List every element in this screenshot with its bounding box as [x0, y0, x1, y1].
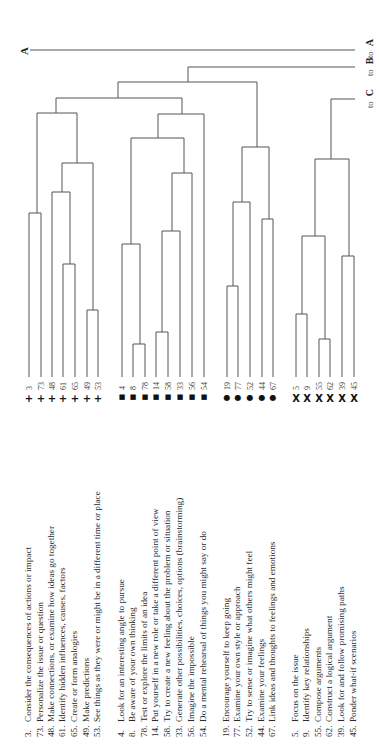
leaf-number: 65: [71, 382, 80, 390]
item-label: 33.Generate other possibilities, choices…: [175, 498, 184, 737]
item-text: Personalize the issue or question: [35, 602, 45, 722]
leaf-number: 49: [83, 382, 92, 390]
item-label: 61.Identify hidden influences, causes, f…: [58, 567, 67, 737]
item-number: 58.: [163, 722, 172, 737]
item-number: 61.: [58, 722, 67, 737]
item-number: 3.: [24, 722, 33, 737]
leaf-symbol-icon: +: [47, 393, 57, 404]
leaf-number: 78: [141, 382, 150, 390]
item-text: Look for an interesting angle to pursue: [116, 579, 126, 722]
item-number: 14.: [151, 722, 160, 737]
leaf-number: 44: [258, 382, 267, 390]
item-label: 5.Focus on the issue: [291, 654, 300, 737]
item-text: Imagine the impossible: [186, 636, 196, 722]
item-text: Test or explore the limits of an idea: [139, 592, 149, 722]
item-label: 78.Test or explore the limits of an idea: [140, 592, 149, 737]
leaf-symbol-icon: X: [325, 393, 335, 404]
item-label: 9.Identify key relationships: [302, 628, 311, 737]
item-number: 54.: [199, 722, 208, 737]
item-label: 44.Examine your feelings: [257, 639, 266, 737]
leaf-symbol-icon: ●: [268, 393, 278, 402]
leaf-number: 77: [234, 382, 243, 390]
item-number: 5.: [291, 722, 300, 737]
item-number: 49.: [82, 722, 91, 737]
leaf-number: 39: [338, 382, 347, 390]
item-label: 19.Encourage yourself to keep going: [222, 598, 231, 737]
item-number: 19.: [222, 722, 231, 737]
item-label: 48.Make connections, or examine how idea…: [47, 526, 56, 737]
item-text: Identify key relationships: [301, 628, 311, 722]
item-label: 3.Consider the consequences of actions o…: [24, 547, 33, 737]
leaf-number: 56: [188, 382, 197, 390]
item-text: Ponder what-if scenarios: [348, 631, 358, 722]
leaf-symbol-icon: ●: [222, 393, 232, 402]
item-text: Consider the consequences of actions or …: [23, 547, 33, 722]
item-number: 9.: [302, 722, 311, 737]
item-text: Make connections, or examine how ideas g…: [46, 526, 56, 722]
item-text: Try to create a new feeling about the pr…: [162, 511, 172, 722]
item-number: 62.: [325, 722, 334, 737]
leaf-symbol-icon: ■: [128, 393, 138, 401]
leaf-number: 55: [315, 382, 324, 390]
connector-label-to-c: to C: [358, 89, 377, 108]
leaf-symbol-icon: +: [93, 393, 103, 404]
item-number: 78.: [140, 722, 149, 737]
leaf-number: 61: [59, 382, 68, 390]
leaf-symbol-icon: X: [314, 393, 324, 404]
leaf-number: 3: [25, 386, 34, 390]
to-target: A: [364, 39, 375, 46]
item-label: 73.Personalize the issue or question: [36, 602, 45, 737]
leaf-number: 54: [200, 382, 209, 390]
to-prefix: to: [365, 69, 375, 76]
item-text: Encourage yourself to keep going: [221, 598, 231, 722]
leaf-number: 19: [223, 382, 232, 390]
connector-label-to-a: to A: [358, 39, 377, 58]
item-number: 65.: [70, 722, 79, 737]
leaf-number: 58: [164, 382, 173, 390]
item-text: Do a mental rehearsal of things you migh…: [198, 531, 208, 722]
leaf-symbol-icon: ■: [117, 393, 127, 401]
leaf-number: 33: [176, 382, 185, 390]
connector-label-to-b: to B: [358, 58, 377, 76]
leaf-number: 45: [350, 382, 359, 390]
item-number: 4.: [117, 722, 126, 737]
item-text: Examine your feelings: [256, 639, 266, 722]
item-label: 4.Look for an interesting angle to pursu…: [117, 579, 126, 737]
item-label: 55.Compose arguments: [314, 647, 323, 737]
leaf-number: 8: [129, 386, 138, 390]
item-label: 62.Construct a logical argument: [325, 616, 334, 737]
item-number: 53.: [93, 722, 102, 737]
item-number: 8.: [128, 722, 137, 737]
to-target: B: [364, 58, 375, 65]
leaf-number: 73: [37, 382, 46, 390]
leaf-symbol-icon: +: [36, 393, 46, 404]
leaf-symbol-icon: ●: [245, 393, 255, 402]
leaf-symbol-icon: +: [70, 393, 80, 404]
item-text: Examine your own style or approach: [232, 587, 242, 722]
item-label: 53.See things as they were or might be i…: [93, 491, 102, 737]
to-prefix: to: [365, 101, 375, 108]
item-label: 52.Try to sense or imagine what others m…: [245, 551, 254, 737]
item-label: 14.Put yourself in a new role or take a …: [151, 508, 160, 737]
item-text: Link ideas and thoughts to feelings and …: [267, 542, 277, 722]
item-label: 65.Create or form analogies: [70, 631, 79, 737]
leaf-symbol-icon: ●: [257, 393, 267, 402]
leaf-symbol-icon: X: [291, 393, 301, 404]
leaf-symbol-icon: ■: [151, 393, 161, 401]
item-label: 39.Look for and follow promising paths: [337, 587, 346, 738]
item-text: Focus on the issue: [290, 654, 300, 722]
item-number: 55.: [314, 722, 323, 737]
leaf-number: 5: [292, 386, 301, 390]
leaf-number: 52: [246, 382, 255, 390]
item-number: 45.: [349, 722, 358, 737]
leaf-symbol-icon: ■: [163, 393, 173, 401]
item-label: 58.Try to create a new feeling about the…: [163, 511, 172, 737]
leaf-symbol-icon: ■: [199, 393, 209, 401]
item-label: 67.Link ideas and thoughts to feelings a…: [268, 542, 277, 737]
leaf-symbol-icon: X: [337, 393, 347, 404]
leaf-number: 14: [152, 382, 161, 390]
item-text: Make predictions: [81, 658, 91, 722]
item-number: 39.: [337, 722, 346, 737]
item-text: Identify hidden influences, causes, fact…: [57, 567, 67, 722]
item-label: 77.Examine your own style or approach: [233, 587, 242, 737]
